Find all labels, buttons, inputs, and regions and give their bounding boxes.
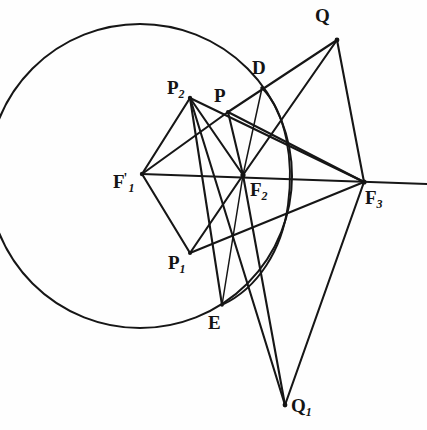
geometry-figure: F'1 F2 F3 P P1 P2 Q Q1 D E — [0, 0, 427, 430]
segment-f2-e — [222, 175, 243, 305]
label-f1-base: F — [113, 171, 125, 192]
label-f3: F3 — [365, 188, 383, 207]
label-p1-base: P — [168, 252, 180, 273]
label-e: E — [208, 313, 221, 332]
segment-q-d-p — [228, 40, 337, 112]
label-q-base: Q — [315, 5, 330, 26]
segment-f1-p1 — [142, 174, 190, 253]
label-f1: F'1 — [113, 172, 135, 191]
node-e — [220, 303, 224, 307]
label-p-base: P — [214, 85, 226, 106]
label-e-base: E — [208, 312, 221, 333]
figure-canvas — [0, 0, 427, 430]
focal-axis — [142, 174, 427, 184]
node-f2 — [240, 172, 245, 177]
label-f2-base: F — [250, 179, 262, 200]
node-f1 — [140, 172, 144, 176]
label-q1-sub: 1 — [306, 405, 312, 419]
label-p1-sub: 1 — [180, 262, 186, 276]
node-p2 — [188, 96, 192, 100]
label-q1: Q1 — [291, 396, 312, 415]
node-q — [335, 38, 340, 43]
label-f3-base: F — [365, 187, 377, 208]
label-q: Q — [315, 6, 330, 25]
segment-p2-q1 — [190, 98, 285, 405]
node-p1 — [188, 251, 192, 255]
segment-p2-f2 — [190, 98, 243, 175]
label-f2-sub: 2 — [262, 189, 268, 203]
node-d — [260, 86, 264, 90]
label-q1-base: Q — [291, 395, 306, 416]
label-f2: F2 — [250, 180, 268, 199]
label-p2-sub: 2 — [179, 87, 185, 101]
segment-f1-p2 — [142, 98, 190, 174]
main-circle — [0, 24, 292, 328]
node-p — [226, 110, 230, 114]
label-f3-sub: 3 — [377, 197, 383, 211]
segment-f3-q — [337, 40, 364, 182]
label-p1: P1 — [168, 253, 186, 272]
label-p: P — [214, 86, 226, 105]
label-p2: P2 — [167, 78, 185, 97]
label-f1-sub: 1 — [129, 181, 135, 195]
node-f3 — [361, 179, 366, 184]
label-d-base: D — [252, 57, 266, 78]
label-f1-prime: ' — [124, 171, 128, 186]
label-d: D — [252, 58, 266, 77]
segment-f3-q1 — [285, 182, 364, 405]
label-p2-base: P — [167, 77, 179, 98]
node-q1 — [283, 403, 288, 408]
segment-f1-p — [142, 112, 228, 174]
